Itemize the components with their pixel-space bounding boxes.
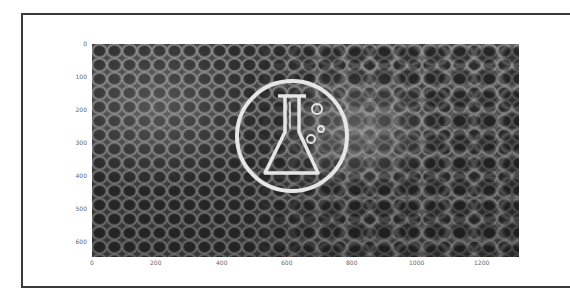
x-tick-label: 1200 <box>474 260 489 266</box>
x-tick-label: 600 <box>281 260 292 266</box>
x-tick-label: 800 <box>346 260 357 266</box>
x-tick-label: 200 <box>150 260 161 266</box>
y-tick-label: 100 <box>57 74 87 80</box>
x-tick-label: 0 <box>90 260 94 266</box>
frame-border-bottom <box>21 286 570 288</box>
x-tick-label: 1000 <box>409 260 424 266</box>
y-tick-label: 200 <box>57 107 87 113</box>
y-tick-label: 300 <box>57 140 87 146</box>
y-tick-label: 500 <box>57 206 87 212</box>
frame-border-left <box>21 13 23 288</box>
y-tick-label: 600 <box>57 239 87 245</box>
y-tick-label: 400 <box>57 173 87 179</box>
y-tick-label: 0 <box>57 41 87 47</box>
frame-border-top <box>22 13 570 15</box>
x-tick-label: 400 <box>216 260 227 266</box>
flask-icon <box>233 77 351 195</box>
